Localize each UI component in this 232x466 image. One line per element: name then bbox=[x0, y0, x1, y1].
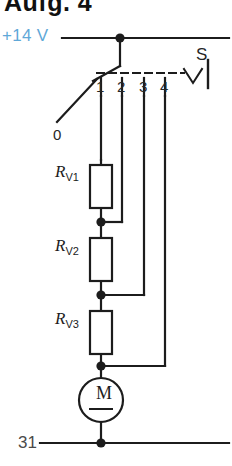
resistor-symbol-rv2: R bbox=[55, 236, 65, 255]
motor-label: M bbox=[96, 384, 112, 402]
resistor-label-rv2: RV2 bbox=[55, 237, 79, 257]
junction-dot-node-4 bbox=[96, 361, 105, 370]
switch-off-position-label: 0 bbox=[53, 127, 61, 142]
resistor-symbol-rv1: R bbox=[55, 162, 65, 181]
resistor-symbol-rv3: R bbox=[55, 309, 65, 328]
junction-dot-node-2 bbox=[96, 217, 105, 226]
contact-label-2: 2 bbox=[117, 79, 125, 94]
junction-dot-node-3 bbox=[96, 290, 105, 299]
resistor-body-rv1 bbox=[90, 165, 112, 208]
circuit-diagram-canvas: Aufg. 4 +14 V 1 2 3 4 0 S RV1 RV2 RV3 M … bbox=[0, 0, 232, 466]
junction-dot-ground bbox=[96, 438, 105, 447]
figure-heading: Aufg. 4 bbox=[4, 0, 92, 15]
resistor-body-rv3 bbox=[90, 311, 112, 354]
junction-dot-supply bbox=[115, 33, 124, 42]
resistor-subscript-rv3: V3 bbox=[65, 318, 78, 330]
resistor-label-rv1: RV1 bbox=[55, 163, 79, 183]
ground-terminal-label: 31 bbox=[18, 434, 37, 451]
resistor-subscript-rv1: V1 bbox=[65, 171, 78, 183]
switch-designator-label: S bbox=[196, 46, 207, 63]
switch-wiper-arm bbox=[57, 79, 97, 122]
supply-voltage-label: +14 V bbox=[2, 27, 48, 44]
resistor-label-rv3: RV3 bbox=[55, 310, 79, 330]
resistor-subscript-rv2: V2 bbox=[65, 245, 78, 257]
resistor-body-rv2 bbox=[90, 238, 112, 281]
switch-detent-notch bbox=[184, 69, 202, 83]
contact-label-1: 1 bbox=[96, 79, 104, 94]
schematic-svg bbox=[0, 0, 232, 466]
contact-label-3: 3 bbox=[139, 79, 147, 94]
contact-label-4: 4 bbox=[160, 79, 168, 94]
